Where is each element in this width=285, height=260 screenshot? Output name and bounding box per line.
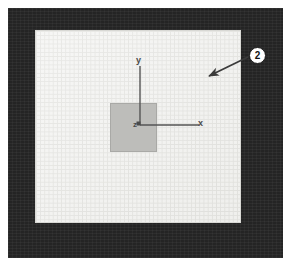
callout-badge-number: 2 <box>255 50 261 61</box>
illustration-figure: y x z 2 <box>0 0 285 260</box>
x-axis-label: x <box>198 119 203 128</box>
callout-badge-2[interactable]: 2 <box>249 47 266 64</box>
grid-canvas: y x z <box>36 31 240 222</box>
z-axis-origin-marker <box>137 122 141 126</box>
y-axis-label: y <box>136 56 141 65</box>
z-axis-label: z <box>133 121 137 129</box>
